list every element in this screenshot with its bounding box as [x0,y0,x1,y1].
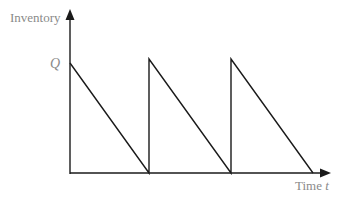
x-axis-label: Time t [295,178,329,193]
x-axis-label-word: Time [295,178,325,193]
x-axis-label-variable: t [325,178,329,193]
y-axis-label: Inventory [10,10,61,25]
inventory-sawtooth-diagram: Inventory Q Time t [0,0,341,203]
x-axis-arrowhead-icon [320,169,331,178]
inventory-sawtooth-line [70,59,313,173]
y-axis-arrowhead-icon [66,9,75,20]
y-tick-label-q: Q [50,56,60,71]
